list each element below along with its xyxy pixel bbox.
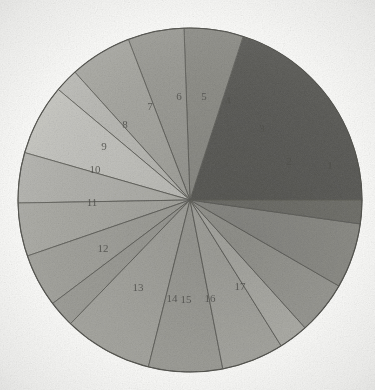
pie-chart-figure: 1234567891011121314151617 [0, 0, 375, 390]
pie-slice-label-16: 16 [205, 292, 217, 304]
pie-slice-label-2: 2 [286, 155, 292, 167]
pie-slice-label-11: 11 [87, 196, 98, 208]
pie-slice-label-12: 12 [98, 242, 109, 254]
pie-slice-label-5: 5 [201, 90, 207, 102]
pie-slice-label-1: 1 [327, 159, 333, 171]
pie-slice-label-13: 13 [133, 281, 145, 293]
pie-slice-label-6: 6 [176, 90, 182, 102]
pie-slice-label-17: 17 [235, 280, 247, 292]
pie-slice-label-4: 4 [225, 94, 231, 106]
pie-shading-overlay [18, 28, 362, 372]
pie-slice-label-9: 9 [101, 140, 107, 152]
pie-slice-label-15: 15 [181, 293, 193, 305]
pie-slice-label-8: 8 [122, 118, 128, 130]
pie-slice-label-10: 10 [90, 163, 102, 175]
pie-chart-svg: 1234567891011121314151617 [0, 0, 375, 390]
pie-slice-label-14: 14 [167, 292, 179, 304]
pie-slice-label-7: 7 [147, 100, 153, 112]
pie-slice-label-3: 3 [259, 122, 265, 134]
